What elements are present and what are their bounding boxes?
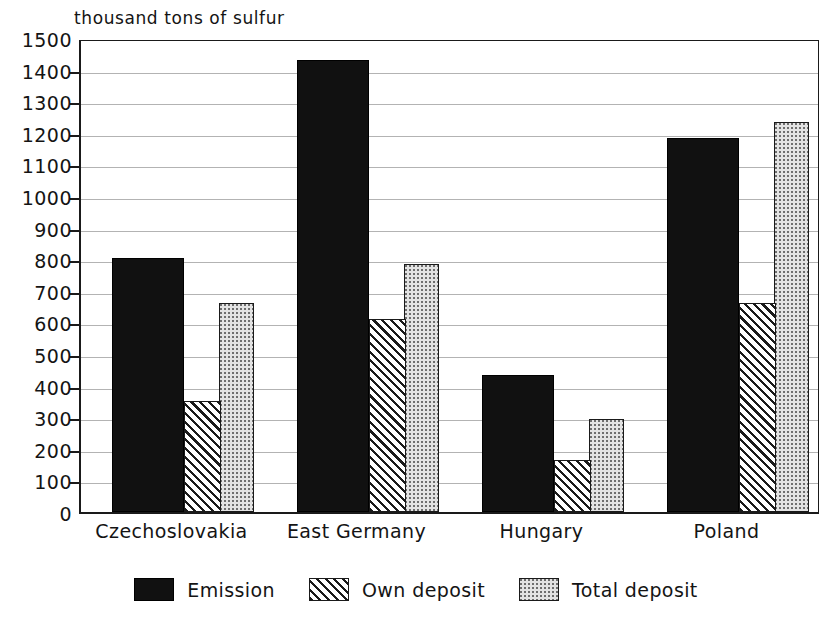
y-axis-tick-label: 1400 [8,61,72,83]
bar-total-deposit [589,419,624,512]
y-axis-labels: 0100200300400500600700800900100011001200… [0,40,72,514]
x-axis-label-east-germany: East Germany [287,520,426,542]
y-axis-tick-label: 100 [8,471,72,493]
chart-legend: EmissionOwn depositTotal deposit [0,578,832,601]
diagonal-hatch-swatch [309,578,349,601]
x-axis-label-hungary: Hungary [500,520,584,542]
y-axis-tick-label: 800 [8,250,72,272]
y-axis-tick-label: 900 [8,219,72,241]
sulfur-bar-chart: thousand tons of sulfur 0100200300400500… [0,0,832,628]
bar-own-deposit [369,319,406,512]
bar-emission [482,375,554,512]
y-axis-tick-label: 1100 [8,155,72,177]
y-axis-tick-label: 0 [8,503,72,525]
plot-area [79,40,819,514]
legend-item-own-deposit: Own deposit [309,578,485,601]
legend-label: Emission [187,579,275,601]
y-axis-tick-label: 1000 [8,187,72,209]
bar-own-deposit [554,460,591,512]
chart-title: thousand tons of sulfur [74,8,285,28]
y-axis-tick-label: 1300 [8,92,72,114]
plot-inner [81,41,818,512]
legend-item-total-deposit: Total deposit [519,578,698,601]
y-axis-tick-label: 200 [8,440,72,462]
y-axis-tick-label: 300 [8,408,72,430]
bar-total-deposit [404,264,439,512]
x-axis-label-czechoslovakia: Czechoslovakia [95,520,247,542]
bar-emission [112,258,184,512]
y-axis-tick-label: 1500 [8,29,72,51]
y-axis-tick-label: 400 [8,377,72,399]
stipple-dots-swatch [519,578,559,601]
bar-own-deposit [739,303,776,512]
legend-label: Own deposit [362,579,485,601]
bar-total-deposit [774,122,809,512]
y-axis-tick-label: 600 [8,313,72,335]
bar-emission [297,60,369,512]
solid-black-swatch [134,578,174,601]
y-axis-tick-label: 1200 [8,124,72,146]
bar-total-deposit [219,303,254,512]
x-axis-label-poland: Poland [694,520,760,542]
legend-item-emission: Emission [134,578,275,601]
bar-emission [667,138,739,512]
bar-own-deposit [184,401,221,512]
y-axis-tick-label: 700 [8,282,72,304]
legend-label: Total deposit [572,579,698,601]
y-axis-tick-label: 500 [8,345,72,367]
x-axis-category-labels: CzechoslovakiaEast GermanyHungaryPoland [79,520,819,550]
